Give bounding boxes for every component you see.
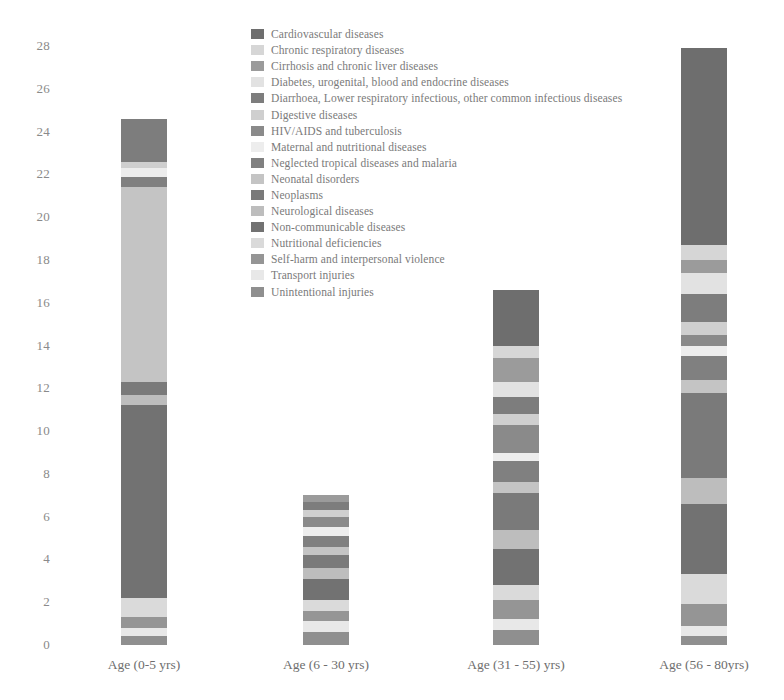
- bar-stack: [681, 48, 727, 645]
- bar-segment[interactable]: [493, 382, 539, 397]
- legend-swatch-icon: [251, 222, 264, 232]
- legend-item[interactable]: Self-harm and interpersonal violence: [251, 251, 681, 267]
- legend-item[interactable]: Unintentional injuries: [251, 284, 681, 300]
- bar-segment[interactable]: [681, 48, 727, 245]
- bar-segment[interactable]: [493, 425, 539, 453]
- bar-segment[interactable]: [681, 245, 727, 260]
- legend-swatch-icon: [251, 190, 264, 200]
- bar-segment[interactable]: [303, 536, 349, 547]
- legend-label: Diarrhoea, Lower respiratory infectious,…: [271, 92, 622, 104]
- bar-segment[interactable]: [121, 168, 167, 177]
- bar-segment[interactable]: [493, 461, 539, 482]
- stacked-bar-chart: 2826242220181614121086420 Age (0-5 yrs)A…: [0, 0, 784, 700]
- bar-segment[interactable]: [493, 493, 539, 529]
- bar-segment[interactable]: [303, 517, 349, 528]
- bar-segment[interactable]: [303, 568, 349, 579]
- bar-segment[interactable]: [493, 630, 539, 645]
- bar-segment[interactable]: [681, 478, 727, 504]
- bar-segment[interactable]: [681, 504, 727, 575]
- bar-segment[interactable]: [493, 358, 539, 382]
- legend-item[interactable]: Maternal and nutritional diseases: [251, 139, 681, 155]
- bar-segment[interactable]: [681, 294, 727, 322]
- x-axis-label: Age (56 - 80yrs): [659, 657, 749, 673]
- bar-segment[interactable]: [681, 322, 727, 335]
- chart-legend: Cardiovascular diseasesChronic respirato…: [251, 26, 681, 300]
- bar-segment[interactable]: [493, 600, 539, 619]
- legend-label: Non-communicable diseases: [271, 221, 405, 233]
- legend-item[interactable]: Diarrhoea, Lower respiratory infectious,…: [251, 90, 681, 106]
- bar-segment[interactable]: [303, 579, 349, 600]
- legend-item[interactable]: HIV/AIDS and tuberculosis: [251, 123, 681, 139]
- legend-label: Unintentional injuries: [271, 286, 374, 298]
- bar-segment[interactable]: [493, 530, 539, 549]
- bar-segment[interactable]: [303, 632, 349, 645]
- bar-segment[interactable]: [493, 585, 539, 600]
- bar-segment[interactable]: [681, 335, 727, 346]
- legend-item[interactable]: Transport injuries: [251, 267, 681, 283]
- bar-segment[interactable]: [121, 617, 167, 628]
- bar-segment[interactable]: [121, 395, 167, 406]
- bar-segment[interactable]: [493, 453, 539, 462]
- bar-stack: [121, 119, 167, 645]
- legend-label: Neoplasms: [271, 189, 323, 201]
- legend-label: Self-harm and interpersonal violence: [271, 253, 445, 265]
- legend-swatch-icon: [251, 110, 264, 120]
- x-axis-label: Age (6 - 30 yrs): [283, 657, 369, 673]
- legend-label: Digestive diseases: [271, 109, 357, 121]
- legend-swatch-icon: [251, 270, 264, 280]
- bar-segment[interactable]: [303, 621, 349, 632]
- bar-segment[interactable]: [681, 636, 727, 645]
- legend-item[interactable]: Neoplasms: [251, 187, 681, 203]
- bar-segment[interactable]: [493, 397, 539, 414]
- bar-segment[interactable]: [681, 574, 727, 604]
- legend-item[interactable]: Chronic respiratory diseases: [251, 42, 681, 58]
- legend-item[interactable]: Neonatal disorders: [251, 171, 681, 187]
- bar-segment[interactable]: [681, 273, 727, 294]
- bar-segment[interactable]: [303, 502, 349, 511]
- legend-item[interactable]: Non-communicable diseases: [251, 219, 681, 235]
- legend-item[interactable]: Cardiovascular diseases: [251, 26, 681, 42]
- legend-item[interactable]: Cirrhosis and chronic liver diseases: [251, 58, 681, 74]
- legend-item[interactable]: Nutritional deficiencies: [251, 235, 681, 251]
- bar-segment[interactable]: [303, 555, 349, 568]
- bar-stack: [303, 495, 349, 645]
- bar-segment[interactable]: [681, 604, 727, 625]
- bar-segment[interactable]: [493, 549, 539, 585]
- legend-label: Transport injuries: [271, 269, 354, 281]
- bar-segment[interactable]: [303, 600, 349, 611]
- legend-label: Neonatal disorders: [271, 173, 359, 185]
- bar-segment[interactable]: [681, 346, 727, 357]
- legend-label: HIV/AIDS and tuberculosis: [271, 125, 402, 137]
- bar-segment[interactable]: [681, 393, 727, 479]
- legend-swatch-icon: [251, 206, 264, 216]
- legend-item[interactable]: Digestive diseases: [251, 106, 681, 122]
- bar-segment[interactable]: [121, 405, 167, 598]
- legend-label: Nutritional deficiencies: [271, 237, 382, 249]
- bar-segment[interactable]: [493, 414, 539, 425]
- bar-segment[interactable]: [493, 346, 539, 359]
- bar-segment[interactable]: [681, 380, 727, 393]
- legend-label: Cirrhosis and chronic liver diseases: [271, 60, 438, 72]
- bar-segment[interactable]: [303, 611, 349, 622]
- bar-segment[interactable]: [681, 626, 727, 637]
- legend-item[interactable]: Diabetes, urogenital, blood and endocrin…: [251, 74, 681, 90]
- bar-segment[interactable]: [681, 260, 727, 273]
- bar-segment[interactable]: [121, 598, 167, 617]
- bar-segment[interactable]: [121, 628, 167, 637]
- bar-segment[interactable]: [303, 527, 349, 536]
- bar-segment[interactable]: [121, 119, 167, 162]
- bar-segment[interactable]: [121, 382, 167, 395]
- bar-segment[interactable]: [303, 547, 349, 556]
- legend-item[interactable]: Neglected tropical diseases and malaria: [251, 155, 681, 171]
- legend-item[interactable]: Neurological diseases: [251, 203, 681, 219]
- bar-segment[interactable]: [493, 482, 539, 493]
- bar-segment[interactable]: [121, 636, 167, 645]
- bar-segment[interactable]: [493, 619, 539, 630]
- legend-swatch-icon: [251, 126, 264, 136]
- legend-label: Neurological diseases: [271, 205, 374, 217]
- bar-segment[interactable]: [121, 177, 167, 188]
- bar-segment[interactable]: [121, 187, 167, 382]
- legend-swatch-icon: [251, 142, 264, 152]
- legend-swatch-icon: [251, 61, 264, 71]
- bar-segment[interactable]: [681, 356, 727, 380]
